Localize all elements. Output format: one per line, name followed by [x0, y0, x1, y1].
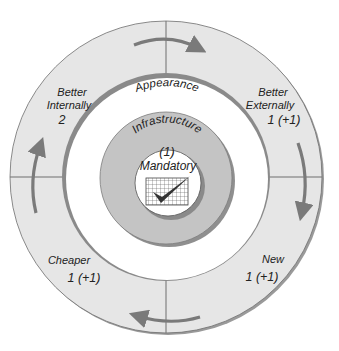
concentric-diagram: Appearance Infrastructure	[0, 0, 339, 351]
checked-grid-icon	[146, 176, 190, 205]
infrastructure-count: (1)	[152, 146, 182, 159]
mandatory-label: Mandatory	[133, 160, 203, 173]
